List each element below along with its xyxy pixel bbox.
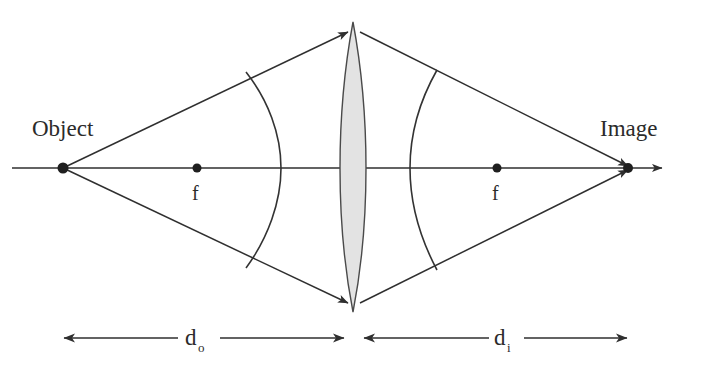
optics-diagram: Object Image f f d o d i [0, 0, 709, 377]
image-label: Image [600, 116, 657, 141]
focal-point-left [193, 164, 202, 173]
image-distance-label: d [494, 325, 506, 350]
object-distance-dimension: d o [64, 325, 344, 355]
ray-diagram-canvas: Object Image f f d o d i [0, 0, 709, 377]
lower-ray-incident [63, 168, 348, 303]
focal-length-label-right: f [492, 182, 499, 204]
image-distance-dimension: d i [364, 325, 627, 355]
wavefront-diverging-left [246, 72, 281, 268]
upper-ray-refracted [360, 32, 628, 166]
converging-lens [340, 22, 366, 312]
focal-point-right [493, 164, 502, 173]
object-label: Object [32, 116, 94, 141]
object-point [58, 163, 69, 174]
object-distance-subscript: o [198, 340, 205, 355]
lens-shape [340, 22, 366, 312]
upper-ray-incident [63, 32, 348, 168]
focal-length-label-left: f [192, 182, 199, 204]
image-point [623, 163, 633, 173]
image-distance-subscript: i [507, 340, 511, 355]
object-distance-label: d [185, 325, 197, 350]
wavefront-converging-right [410, 70, 437, 270]
